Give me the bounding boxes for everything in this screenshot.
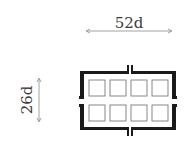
- plan-diagram: 52d 26d: [0, 0, 185, 161]
- cell: [89, 80, 105, 96]
- cell: [110, 80, 126, 96]
- height-label: 26d: [18, 85, 36, 114]
- wall-bottom-left: [79, 104, 129, 136]
- width-label: 52d: [115, 14, 144, 32]
- cell: [131, 105, 147, 121]
- cell-grid: [89, 80, 168, 121]
- width-dimension: 52d: [86, 14, 172, 33]
- cell: [110, 105, 126, 121]
- building-walls: [79, 65, 177, 136]
- height-dimension: 26d: [18, 78, 41, 122]
- wall-bottom-right: [131, 104, 177, 136]
- cell: [152, 80, 168, 96]
- wall-top-left: [79, 65, 129, 99]
- cell: [131, 80, 147, 96]
- cell: [152, 105, 168, 121]
- cell: [89, 105, 105, 121]
- wall-top-right: [131, 65, 177, 99]
